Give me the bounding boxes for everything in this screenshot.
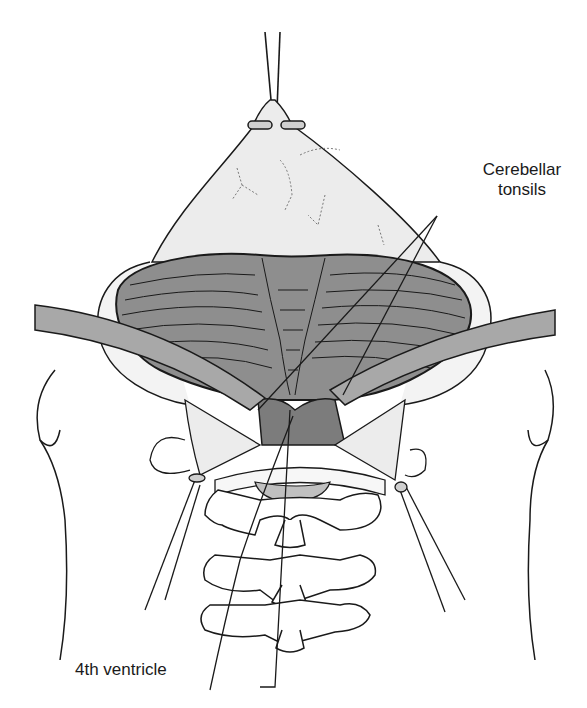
label-tonsils: tonsils xyxy=(462,180,582,200)
suture-knot-left xyxy=(248,121,272,129)
suture-knot-lower-right xyxy=(395,482,407,492)
top-suture xyxy=(265,32,280,110)
anatomy-illustration xyxy=(0,0,587,708)
mastoid-right xyxy=(405,449,426,477)
cervical-vertebrae xyxy=(201,490,381,652)
dura-flap-lower-right xyxy=(335,400,405,480)
label-cerebellar-tonsils: Cerebellar tonsils xyxy=(462,160,582,200)
mastoid-left xyxy=(150,438,190,474)
fourth-ventricle xyxy=(258,399,345,445)
label-fourth-ventricle: 4th ventricle xyxy=(75,660,167,680)
suture-knot-right xyxy=(281,121,305,129)
suture-knot-lower-left xyxy=(189,474,205,482)
label-cerebellar: Cerebellar xyxy=(462,160,582,180)
dura-flap-lower-left xyxy=(185,400,260,475)
